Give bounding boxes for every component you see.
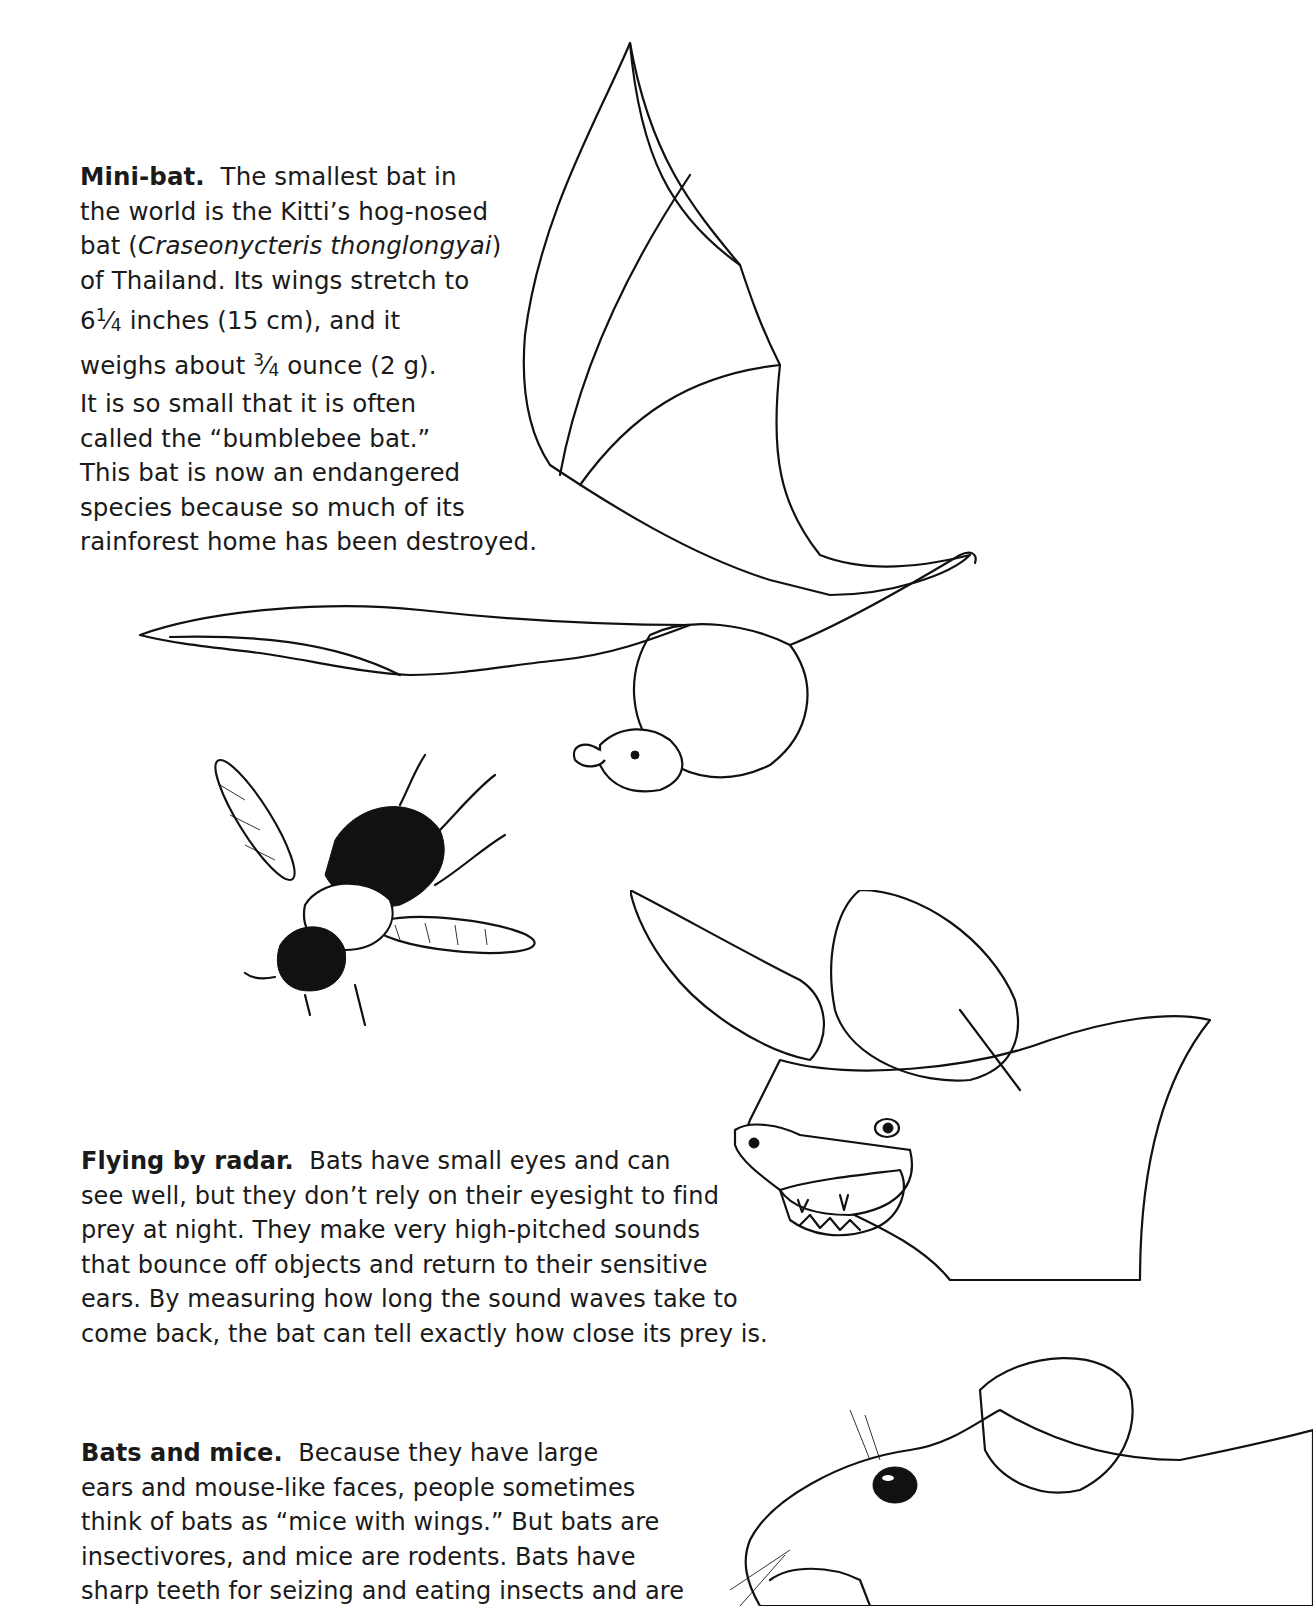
line: rainforest home has been destroyed.: [80, 525, 537, 560]
fraction-denominator: 4: [111, 315, 122, 335]
line: called the “bumblebee bat.”: [80, 422, 537, 457]
line: come back, the bat can tell exactly how …: [81, 1317, 768, 1352]
bumblebee-illustration: [185, 745, 545, 1035]
section-mini-bat: Mini-bat. The smallest bat in the world …: [80, 160, 537, 560]
fraction-denominator: 4: [268, 360, 279, 380]
line: Flying by radar. Bats have small eyes an…: [81, 1144, 768, 1179]
scientific-name: Craseonycteris thonglongyai: [138, 231, 492, 260]
line: It is so small that it is often: [80, 387, 537, 422]
line: This bat is now an endangered: [80, 456, 537, 491]
section-heading: Mini-bat.: [80, 162, 205, 191]
line: ears. By measuring how long the sound wa…: [81, 1282, 768, 1317]
line: that bounce off objects and return to th…: [81, 1248, 768, 1283]
line: Bats and mice. Because they have large: [81, 1436, 684, 1471]
line: ears and mouse-like faces, people someti…: [81, 1471, 684, 1506]
mouse-head-illustration: [730, 1350, 1313, 1606]
line: weighs about 3⁄4 ounce (2 g).: [80, 343, 537, 388]
line: species because so much of its: [80, 491, 537, 526]
line: Mini-bat. The smallest bat in: [80, 160, 537, 195]
fraction-numerator: 1: [96, 305, 107, 325]
line: see well, but they don’t rely on their e…: [81, 1179, 768, 1214]
line: think of bats as “mice with wings.” But …: [81, 1505, 684, 1540]
section-heading: Flying by radar.: [81, 1147, 294, 1175]
section-flying-by-radar: Flying by radar. Bats have small eyes an…: [81, 1144, 768, 1352]
line: sharp teeth for seizing and eating insec…: [81, 1574, 684, 1606]
line: 61⁄4 inches (15 cm), and it: [80, 298, 537, 343]
line: bat (Craseonycteris thonglongyai): [80, 229, 537, 264]
line: insectivores, and mice are rodents. Bats…: [81, 1540, 684, 1575]
line: of Thailand. Its wings stretch to: [80, 264, 537, 299]
section-heading: Bats and mice.: [81, 1439, 283, 1467]
line: the world is the Kitti’s hog-nosed: [80, 195, 537, 230]
line: prey at night. They make very high-pitch…: [81, 1213, 768, 1248]
fraction-numerator: 3: [253, 350, 264, 370]
section-bats-and-mice: Bats and mice. Because they have large e…: [81, 1436, 684, 1606]
